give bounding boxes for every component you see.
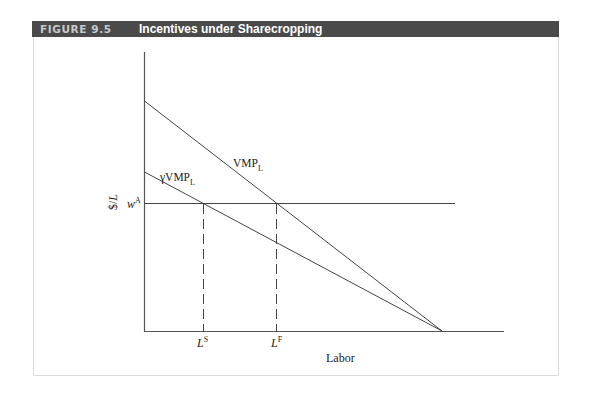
- gamma-vmp-label: γVMPL: [159, 171, 195, 187]
- chart-svg: $/L wA VMPL γVMPL LS LF Labor: [0, 0, 591, 399]
- ls-label: LS: [196, 335, 208, 350]
- svg-text:$/L: $/L: [106, 194, 120, 210]
- vmp-line: [145, 101, 443, 331]
- vmp-label: VMPL: [233, 157, 263, 173]
- x-axis-label: Labor: [326, 351, 355, 365]
- y-axis-label: $/L: [106, 194, 120, 210]
- wage-label: wA: [127, 196, 141, 211]
- gamma-vmp-line: [145, 172, 443, 331]
- lf-label: LF: [270, 335, 283, 350]
